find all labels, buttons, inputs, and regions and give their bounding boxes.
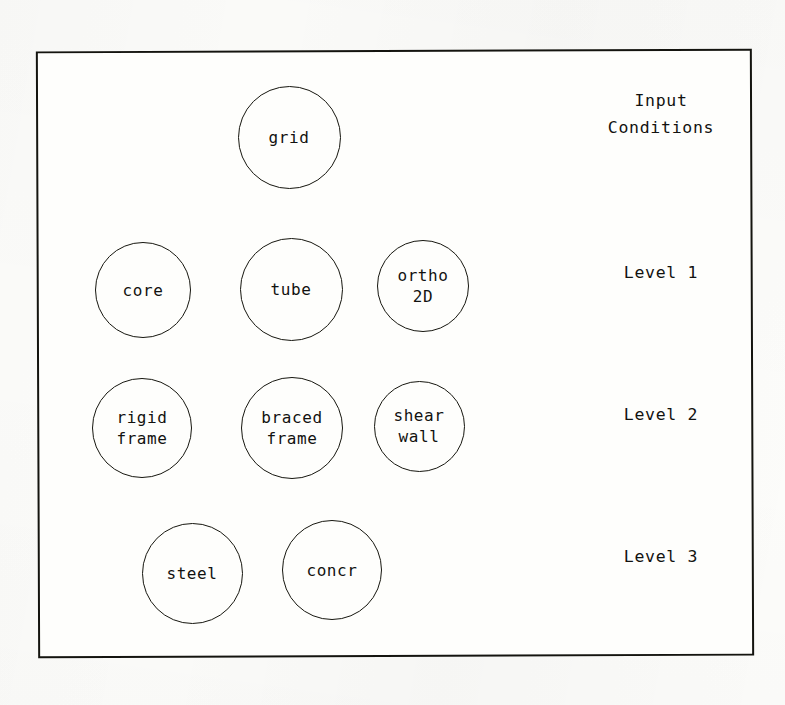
row-label-input-conditions: Input Conditions: [551, 87, 771, 141]
node-label-grid: grid: [269, 127, 310, 148]
node-label-braced-frame: braced frame: [261, 407, 322, 449]
node-label-rigid-frame: rigid frame: [116, 407, 167, 449]
node-label-steel: steel: [166, 563, 217, 584]
node-shear-wall[interactable]: shear wall: [374, 381, 465, 472]
node-label-core: core: [123, 280, 164, 301]
row-label-level-1: Level 1: [551, 259, 771, 286]
node-ortho-2d[interactable]: ortho 2D: [377, 240, 469, 332]
node-label-concr: concr: [306, 560, 357, 581]
node-core[interactable]: core: [95, 242, 191, 338]
node-label-shear-wall: shear wall: [393, 405, 444, 447]
node-rigid-frame[interactable]: rigid frame: [92, 378, 192, 478]
node-tube[interactable]: tube: [240, 238, 343, 341]
row-label-level-2: Level 2: [551, 401, 771, 428]
node-grid[interactable]: grid: [238, 86, 341, 189]
node-label-ortho-2d: ortho 2D: [397, 265, 448, 307]
node-label-tube: tube: [271, 279, 312, 300]
row-label-level-3: Level 3: [551, 543, 771, 570]
node-steel[interactable]: steel: [142, 523, 243, 624]
node-concr[interactable]: concr: [282, 520, 382, 620]
node-braced-frame[interactable]: braced frame: [241, 377, 343, 479]
diagram-page: gridcoretubeortho 2Drigid framebraced fr…: [0, 0, 785, 705]
